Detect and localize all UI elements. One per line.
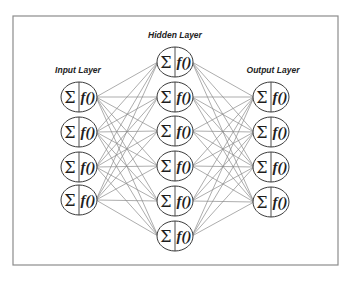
hidden-node: Σf() [157, 82, 193, 112]
activation-function-label: f() [177, 123, 192, 140]
input-node: Σf() [61, 185, 97, 215]
activation-function-label: f() [273, 194, 288, 211]
summation-icon: Σ [256, 193, 267, 212]
summation-icon: Σ [160, 157, 171, 176]
activation-function-label: f() [273, 124, 288, 141]
hidden-layer-title: Hidden Layer [148, 30, 203, 40]
summation-icon: Σ [256, 88, 267, 107]
hidden-node: Σf() [157, 116, 193, 146]
hidden-node: Σf() [157, 151, 193, 181]
summation-icon: Σ [160, 122, 171, 141]
summation-icon: Σ [64, 191, 75, 210]
output-node: Σf() [253, 117, 289, 147]
hidden-node: Σf() [157, 47, 193, 77]
output-node: Σf() [253, 152, 289, 182]
summation-icon: Σ [160, 192, 171, 211]
neural-network-diagram: Input LayerHidden LayerOutput Layer Σf()… [0, 0, 348, 281]
activation-function-label: f() [177, 228, 192, 245]
activation-function-label: f() [273, 89, 288, 106]
summation-icon: Σ [64, 123, 75, 142]
activation-function-label: f() [81, 124, 96, 141]
input-node: Σf() [61, 117, 97, 147]
summation-icon: Σ [160, 53, 171, 72]
activation-function-label: f() [81, 192, 96, 209]
activation-function-label: f() [81, 159, 96, 176]
input-layer-title: Input Layer [55, 65, 102, 75]
input-node: Σf() [61, 152, 97, 182]
input-node: Σf() [61, 82, 97, 112]
activation-function-label: f() [81, 89, 96, 106]
summation-icon: Σ [64, 158, 75, 177]
hidden-node: Σf() [157, 221, 193, 251]
activation-function-label: f() [177, 89, 192, 106]
output-node: Σf() [253, 82, 289, 112]
activation-function-label: f() [177, 158, 192, 175]
activation-function-label: f() [177, 54, 192, 71]
summation-icon: Σ [160, 227, 171, 246]
hidden-node: Σf() [157, 186, 193, 216]
summation-icon: Σ [256, 123, 267, 142]
activation-function-label: f() [273, 159, 288, 176]
summation-icon: Σ [256, 158, 267, 177]
summation-icon: Σ [64, 88, 75, 107]
summation-icon: Σ [160, 88, 171, 107]
activation-function-label: f() [177, 193, 192, 210]
output-layer-title: Output Layer [247, 65, 301, 75]
output-node: Σf() [253, 187, 289, 217]
